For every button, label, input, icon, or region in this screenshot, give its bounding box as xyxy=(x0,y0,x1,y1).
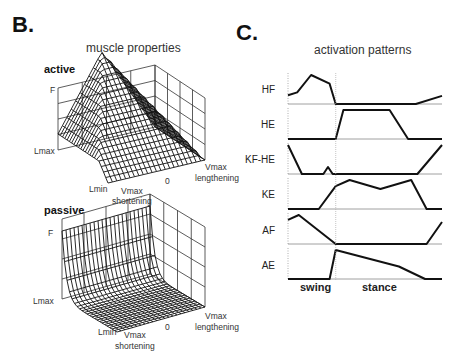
active-zero-label: 0 xyxy=(165,177,170,186)
stance-phase-label: stance xyxy=(362,282,397,293)
activation-trace-kf-he xyxy=(288,145,442,174)
passive-lengthening-label: lengthening xyxy=(195,323,239,332)
activation-trace-hf xyxy=(288,75,442,104)
passive-zero-label: 0 xyxy=(165,323,170,332)
active-f-axis-label: F xyxy=(50,86,55,95)
row-label-kf-he: KF-HE xyxy=(245,155,275,165)
passive-f-axis-label: F xyxy=(48,229,53,238)
active-vmax-short-label: Vmax xyxy=(121,187,143,196)
activation-trace-ke xyxy=(288,180,442,209)
passive-lmax-label: Lmax xyxy=(33,297,54,306)
active-lmin-label: Lmin xyxy=(89,185,107,194)
passive-lmin-label: Lmin xyxy=(98,328,116,337)
panel-b-letter: B. xyxy=(12,14,34,36)
active-lmax-label: Lmax xyxy=(34,147,55,156)
panel-b-title: muscle properties xyxy=(86,42,181,54)
row-label-af: AF xyxy=(262,226,275,236)
row-label-ke: KE xyxy=(262,190,275,200)
active-shortening-label: shortening xyxy=(112,197,152,206)
passive-shortening-label: shortening xyxy=(115,342,155,351)
active-surface-plot xyxy=(58,53,205,184)
activation-trace-af xyxy=(288,215,442,244)
row-label-he: HE xyxy=(261,120,275,130)
active-vmax-long-label: Vmax xyxy=(205,163,227,172)
passive-vmax-short-label: Vmax xyxy=(124,331,146,340)
activation-trace-ae xyxy=(288,250,442,279)
row-label-ae: AE xyxy=(262,261,275,271)
passive-vmax-long-label: Vmax xyxy=(205,312,227,321)
passive-label: passive xyxy=(44,205,84,216)
active-lengthening-label: lengthening xyxy=(195,174,239,183)
panel-c-letter: C. xyxy=(236,22,258,44)
activation-trace-he xyxy=(288,110,442,139)
active-label: active xyxy=(44,64,75,75)
activation-patterns-plot xyxy=(288,73,442,280)
row-label-hf: HF xyxy=(262,85,275,95)
panel-c-title: activation patterns xyxy=(314,44,411,56)
swing-phase-label: swing xyxy=(300,282,331,293)
